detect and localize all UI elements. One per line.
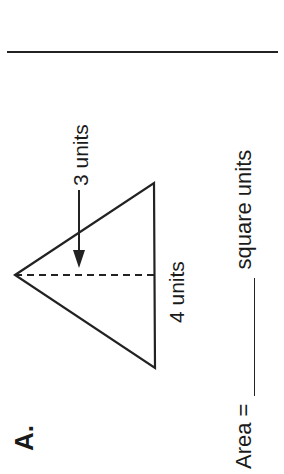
base-label: 4 units bbox=[166, 261, 187, 323]
problem-letter: A. bbox=[11, 425, 37, 451]
area-answer-blank[interactable] bbox=[232, 278, 255, 396]
height-label: 3 units bbox=[70, 124, 91, 186]
triangle-outline bbox=[15, 183, 155, 368]
area-answer-row: Area = square units bbox=[228, 150, 255, 469]
arrow-head-icon bbox=[73, 250, 85, 268]
area-suffix: square units bbox=[233, 150, 255, 270]
area-prefix: Area = bbox=[233, 404, 255, 469]
